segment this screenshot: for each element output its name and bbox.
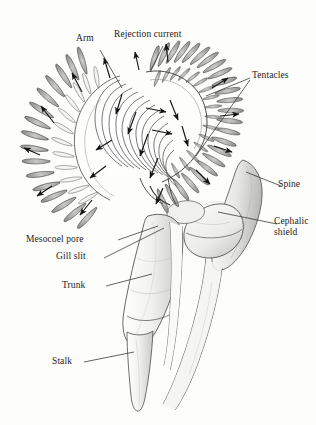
label-arm: Arm (76, 33, 94, 44)
label-spine: Spine (278, 179, 300, 190)
label-rejection-current: Rejection current (114, 29, 181, 40)
label-stalk: Stalk (52, 356, 72, 367)
label-cephalic-shield-line1: Cephalic (274, 216, 309, 226)
figure-panel: (H) (0, 0, 316, 425)
label-trunk: Trunk (62, 280, 85, 291)
label-cephalic-shield-line2: shield (274, 227, 297, 237)
label-tentacles: Tentacles (252, 70, 289, 81)
anatomy-illustration (0, 0, 316, 425)
label-gill-slit: Gill slit (56, 251, 86, 262)
label-mesocoel-pore: Mesocoel pore (26, 234, 84, 245)
